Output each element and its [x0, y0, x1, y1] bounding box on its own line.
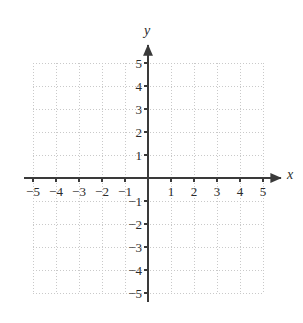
x-tick-label: −2 — [95, 185, 109, 198]
y-tick-label: −3 — [128, 241, 142, 254]
x-tick-label: −3 — [72, 185, 86, 198]
grid-and-axes-svg — [0, 0, 303, 323]
x-tick-label: 2 — [191, 185, 198, 198]
x-tick-label: 4 — [237, 185, 244, 198]
y-tick-label: −5 — [128, 287, 142, 300]
y-tick-label: −1 — [128, 195, 142, 208]
y-tick-label: 1 — [136, 149, 143, 162]
coordinate-plane: −5−4−3−2−11234554321−1−2−3−4−5 x y — [0, 0, 303, 323]
y-axis-label: y — [144, 24, 150, 38]
y-tick-label: 5 — [136, 57, 143, 70]
y-tick-label: 3 — [136, 103, 143, 116]
x-axis-label: x — [287, 168, 293, 182]
y-tick-label: 4 — [136, 80, 143, 93]
y-tick-label: −2 — [128, 218, 142, 231]
y-tick-label: 2 — [136, 126, 143, 139]
x-tick-label: −5 — [26, 185, 40, 198]
x-tick-label: −4 — [49, 185, 63, 198]
x-tick-label: 1 — [168, 185, 175, 198]
x-tick-label: 5 — [260, 185, 267, 198]
y-tick-label: −4 — [128, 264, 142, 277]
axis-lines — [24, 45, 281, 302]
x-tick-label: 3 — [214, 185, 221, 198]
